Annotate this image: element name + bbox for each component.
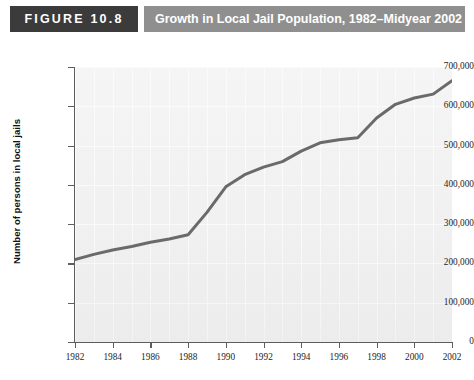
figure-title-bar: Growth in Local Jail Population, 1982–Mi…: [144, 6, 465, 32]
y-axis-tick: [68, 106, 75, 107]
y-axis-tick-label: 400,000: [412, 179, 474, 189]
y-axis-tick: [68, 146, 75, 147]
y-axis-tick: [68, 67, 75, 68]
x-axis-tick: [113, 342, 114, 348]
x-axis-tick-label: 1984: [93, 352, 133, 362]
y-axis-tick-label: 0: [412, 336, 474, 346]
y-axis-tick: [68, 342, 75, 343]
x-axis-tick-label: 1988: [168, 352, 208, 362]
y-axis-tick: [68, 263, 75, 264]
y-axis-tick-label: 200,000: [412, 257, 474, 267]
x-axis-tick: [414, 342, 415, 348]
data-series-line: [75, 67, 452, 342]
y-axis-tick-label: 500,000: [412, 140, 474, 150]
figure-number-label: FIGURE 10.8: [24, 12, 123, 26]
y-axis-tick-label: 600,000: [412, 100, 474, 110]
x-axis-tick: [264, 342, 265, 348]
chart-container: Number of persons in local jails 0100,00…: [0, 36, 474, 380]
figure-title: Growth in Local Jail Population, 1982–Mi…: [144, 12, 462, 26]
x-axis-tick: [452, 342, 453, 348]
x-axis-tick-label: 1986: [130, 352, 170, 362]
y-axis-tick: [68, 303, 75, 304]
figure-header: FIGURE 10.8 Growth in Local Jail Populat…: [10, 6, 465, 32]
x-axis-tick-label: 1990: [206, 352, 246, 362]
x-axis-tick-label: 1994: [281, 352, 321, 362]
x-axis-tick: [226, 342, 227, 348]
figure-number-badge: FIGURE 10.8: [10, 6, 138, 32]
x-axis-tick: [150, 342, 151, 348]
x-axis-tick: [377, 342, 378, 348]
plot-area: [75, 67, 452, 342]
y-axis-tick-label: 300,000: [412, 218, 474, 228]
y-axis-title: Number of persons in local jails: [11, 92, 22, 292]
y-axis-line: [74, 67, 75, 343]
y-axis-tick: [68, 224, 75, 225]
x-axis-tick: [75, 342, 76, 348]
x-axis-tick-label: 2000: [394, 352, 434, 362]
x-axis-tick: [339, 342, 340, 348]
y-axis-tick-label: 700,000: [412, 61, 474, 71]
y-axis-tick-label: 100,000: [412, 297, 474, 307]
x-axis-tick-label: 1982: [55, 352, 95, 362]
x-axis-tick-label: 1996: [319, 352, 359, 362]
x-axis-tick: [188, 342, 189, 348]
x-axis-tick-label: 1998: [357, 352, 397, 362]
figure-root: FIGURE 10.8 Growth in Local Jail Populat…: [0, 0, 474, 380]
y-axis-tick: [68, 185, 75, 186]
x-axis-tick-label: 1992: [244, 352, 284, 362]
x-axis-tick: [301, 342, 302, 348]
x-axis-tick-label: 2002: [432, 352, 472, 362]
